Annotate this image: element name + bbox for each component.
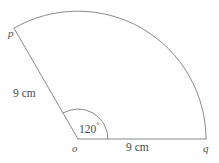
radius-measure-bottom: 9 cm — [126, 142, 149, 154]
degree-symbol: ° — [96, 121, 99, 130]
radius-measure-left: 9 cm — [13, 88, 36, 100]
sector-drawing — [0, 0, 219, 163]
central-angle-value: 120 — [79, 123, 96, 135]
sector-figure: p o q 9 cm 9 cm 120° — [0, 0, 219, 163]
vertex-label-o: o — [72, 143, 78, 154]
vertex-label-q: q — [203, 143, 209, 154]
central-angle-label: 120° — [79, 122, 99, 135]
radius-line-op — [14, 28, 78, 139]
sector-arc-qp — [14, 11, 206, 139]
vertex-label-p: p — [8, 28, 14, 39]
